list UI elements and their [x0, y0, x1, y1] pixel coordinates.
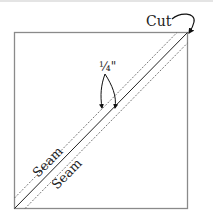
seam-allowance-arrow-left-icon: [101, 74, 105, 108]
seam-allowance-arrow-right-icon: [105, 74, 115, 108]
cut-line: [15, 33, 188, 209]
cut-label: Cut: [146, 13, 172, 29]
cut-arrow-icon: [172, 14, 194, 33]
half-square-triangle-diagram: Cut ¼" Seam Seam: [0, 0, 213, 221]
seam-allowance-label: ¼": [99, 60, 116, 74]
